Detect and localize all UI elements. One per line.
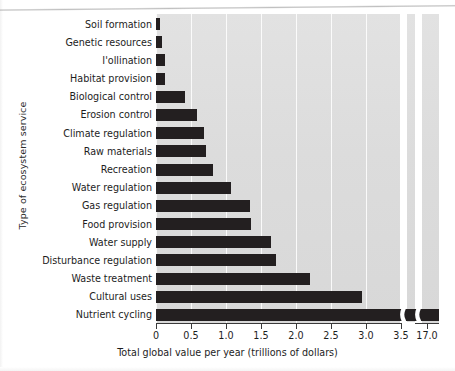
ecosystem-service-value-bar-chart: Type of ecosystem service Soil formation… [0, 0, 455, 371]
plot-area [156, 14, 439, 323]
x-axis-tick [331, 323, 332, 329]
category-label: Climate regulation [30, 128, 152, 139]
category-label: Genetic resources [30, 37, 152, 48]
bar [156, 236, 271, 248]
category-label: Raw materials [30, 146, 152, 157]
x-axis-tick-label: 17.0 [416, 330, 437, 341]
category-label: Water supply [30, 237, 152, 248]
bar [156, 145, 206, 157]
category-label: Waste treatment [30, 273, 152, 284]
x-axis-tick [427, 323, 428, 329]
x-axis-tick-label: 3.5 [393, 330, 408, 341]
axis-break-wave-left [400, 12, 407, 325]
category-label: Erosion control [30, 109, 152, 120]
x-axis-tick [156, 323, 157, 329]
bar [156, 273, 310, 285]
gridline [366, 14, 367, 323]
category-label: I'ollination [30, 55, 152, 66]
x-axis-line [156, 323, 439, 324]
category-label: Food provision [30, 219, 152, 230]
x-axis-tick-label: 0 [153, 330, 159, 341]
bar [156, 200, 250, 212]
category-label: Biological control [30, 91, 152, 102]
bar [156, 54, 165, 66]
bar [156, 73, 165, 85]
x-axis-tick-label: 2.0 [288, 330, 303, 341]
category-label: Soil formation [30, 19, 152, 30]
bar [156, 309, 439, 321]
x-axis-tick-label: 2.5 [323, 330, 338, 341]
bar [156, 36, 162, 48]
x-axis-tick [261, 323, 262, 329]
category-label: Recreation [30, 164, 152, 175]
bar [156, 254, 276, 266]
x-axis-tick-label: 1.0 [218, 330, 233, 341]
gridline [331, 14, 332, 323]
category-label: Disturbance regulation [30, 255, 152, 266]
category-label: Cultural uses [30, 291, 152, 302]
x-axis-tick-label: 0.5 [183, 330, 198, 341]
y-axis-title: Type of ecosystem service [17, 61, 28, 271]
x-axis-tick [296, 323, 297, 329]
bar [156, 127, 204, 139]
x-axis-tick [191, 323, 192, 329]
category-label: Water regulation [30, 182, 152, 193]
axis-line-break-gap [402, 322, 415, 326]
category-label: Gas regulation [30, 200, 152, 211]
x-axis-tick [226, 323, 227, 329]
bar [156, 91, 185, 103]
x-axis-tick-label: 1.5 [253, 330, 268, 341]
x-axis-tick-label: 3.0 [358, 330, 373, 341]
x-axis-title: Total global value per year (trillions o… [0, 347, 455, 358]
category-label: Nutrient cycling [30, 309, 152, 320]
axis-break-wave-right [415, 12, 422, 325]
bar [156, 291, 362, 303]
bar [156, 18, 160, 30]
category-label: Habitat provision [30, 73, 152, 84]
bar [156, 218, 251, 230]
bar [156, 182, 231, 194]
category-label-column: Soil formationGenetic resourcesI'ollinat… [30, 14, 152, 323]
bar [156, 164, 213, 176]
bar [156, 109, 197, 121]
x-axis-tick [366, 323, 367, 329]
